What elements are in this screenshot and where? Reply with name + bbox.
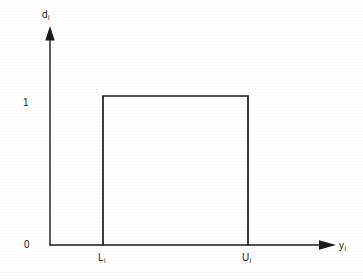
desirability-curve (103, 96, 248, 245)
y-tick-label-0: 0 (24, 240, 30, 250)
x-tick-label-lower-bound: Li (98, 253, 105, 263)
y-tick-label-1: 1 (23, 98, 29, 108)
x-axis-title: yi (339, 241, 346, 251)
figure-canvas (0, 0, 363, 279)
y-axis-arrow-icon (45, 26, 54, 41)
x-axis-arrow-icon (319, 240, 336, 250)
desirability-function-figure: di yi 1 0 Li Ui (0, 0, 363, 279)
y-axis-title: di (42, 10, 49, 20)
x-tick-label-upper-bound: Ui (242, 253, 251, 263)
